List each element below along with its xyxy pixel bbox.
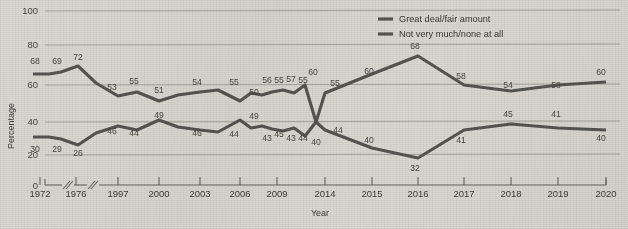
data-label-bottom-1: 29 [52,144,62,154]
gridline-40 [45,121,620,122]
data-label-top-7: 55 [229,77,239,87]
x-label-2019: 2019 [547,188,568,199]
y-tick-60: 60 [27,79,38,90]
x-label-2017: 2017 [453,188,474,199]
x-label-2015: 2015 [361,188,382,199]
x-label-2014: 2014 [314,188,335,199]
data-label-top-18: 54 [503,80,513,90]
data-label-bottom-17: 41 [456,135,466,145]
data-label-bottom-7: 44 [229,129,239,139]
data-label-bottom-5: 49 [154,110,164,120]
gridline-20 [45,154,620,155]
data-label-bottom-18: 45 [503,109,513,119]
data-label-top-19: 58 [551,80,561,90]
data-label-bottom-8: 49 [249,111,259,121]
data-label-bottom-20: 40 [596,133,606,143]
x-label-2006: 2006 [229,188,250,199]
data-label-bottom-15: 40 [364,135,374,145]
data-label-bottom-4: 44 [129,128,139,138]
x-axis-ticks [40,177,606,185]
series-line-great-deal [33,56,606,122]
data-label-bottom-13: 40 [311,137,321,147]
line-chart: 100 80 60 40 20 0 Percentage [0,0,628,229]
data-label-top-2: 72 [73,52,83,62]
gridline-80 [45,44,620,45]
x-label-2003: 2003 [189,188,210,199]
y-axis-title: Percentage [6,103,16,149]
data-label-top-0: 68 [30,56,40,66]
x-label-1972: 1972 [29,188,50,199]
data-label-bottom-19: 41 [551,109,561,119]
data-label-top-14: 55 [330,78,340,88]
data-label-top-9: 56 [262,75,272,85]
data-label-bottom-12: 44 [298,133,308,143]
chart-svg: 100 80 60 40 20 0 Percentage [0,0,628,229]
data-label-top-6: 54 [192,77,202,87]
data-label-top-5: 51 [154,85,164,95]
data-label-bottom-16: 32 [410,163,420,173]
x-label-2000: 2000 [148,188,169,199]
x-label-1976: 1976 [65,188,86,199]
y-axis-labels: 100 80 60 40 20 0 [22,5,38,191]
data-label-top-11: 57 [286,74,296,84]
data-label-top-12: 55 [298,75,308,85]
data-label-bottom-14: 44 [333,125,343,135]
y-tick-40: 40 [27,116,38,127]
x-label-2016: 2016 [407,188,428,199]
data-label-top-13: 60 [308,67,318,77]
data-label-bottom-2: 26 [73,148,83,158]
data-label-bottom-6: 46 [192,128,202,138]
legend-label-not-very-much: Not very much/none at all [399,29,503,39]
data-label-bottom-3: 46 [107,126,117,136]
legend-label-great-deal: Great deal/fair amount [399,14,491,24]
y-tick-80: 80 [27,39,38,50]
data-label-top-8: 50 [249,87,259,97]
data-label-bottom-11: 43 [286,133,296,143]
data-label-top-16: 68 [410,41,420,51]
x-label-1997: 1997 [107,188,128,199]
data-label-top-20: 60 [596,67,606,77]
legend: Great deal/fair amount Not very much/non… [378,14,503,39]
x-axis-labels: 1972 1976 1997 2000 2003 2006 2009 2014 … [29,188,616,199]
data-label-top-15: 60 [364,66,374,76]
data-label-top-1: 69 [52,56,62,66]
gridline-100 [45,10,620,11]
data-label-top-4: 55 [129,76,139,86]
data-label-top-3: 53 [107,82,117,92]
data-label-bottom-10: 45 [274,129,284,139]
data-label-top-17: 58 [456,71,466,81]
y-tick-100: 100 [22,5,38,16]
x-label-2020: 2020 [595,188,616,199]
data-label-bottom-9: 43 [262,133,272,143]
data-label-top-10: 55 [274,75,284,85]
data-label-bottom-0: 30 [30,144,40,154]
x-label-2009: 2009 [266,188,287,199]
x-axis-title: Year [311,208,329,218]
x-label-2018: 2018 [500,188,521,199]
